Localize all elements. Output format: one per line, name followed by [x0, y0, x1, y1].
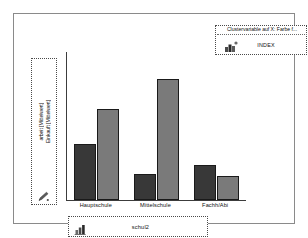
legend-variable-label: INDEX [238, 42, 294, 48]
chart-panel: Clustervariable auf X: Farbe f... INDEX … [13, 13, 295, 224]
y-axis-label-secondary: Einkauft [Mittelwert] [45, 100, 51, 143]
bar[interactable] [217, 176, 239, 200]
bar[interactable] [97, 109, 119, 200]
x-axis-tick-label: Mittelschule [126, 202, 186, 208]
legend-box[interactable]: Clustervariable auf X: Farbe f... INDEX [215, 25, 307, 55]
x-axis-tick-label: Hauptschule [66, 202, 126, 208]
plot-area: HauptschuleMittelschuleFachh/Abi [66, 52, 246, 202]
bar-chart-icon [74, 221, 88, 233]
y-axis-label-stack: arbeit [Mittelwert] Einkauft [Mittelwert… [32, 59, 56, 185]
x-axis-tick-label: Fachh/Abi [185, 202, 245, 208]
legend-title: Clustervariable auf X: Farbe f... [217, 26, 307, 35]
bar[interactable] [134, 174, 156, 200]
bar-group [194, 53, 239, 200]
y-axis-variable-box[interactable]: arbeit [Mittelwert] Einkauft [Mittelwert… [31, 58, 57, 205]
x-axis-tick-labels: HauptschuleMittelschuleFachh/Abi [66, 202, 246, 214]
x-axis-line [66, 200, 246, 201]
bar[interactable] [74, 144, 96, 200]
pencil-icon[interactable] [37, 188, 50, 199]
x-axis-variable-label: schul2 [88, 224, 193, 230]
bar-group [74, 53, 119, 200]
bar[interactable] [157, 79, 179, 200]
bar-series-container [67, 53, 246, 200]
cluster-color-icon [224, 39, 238, 51]
y-axis-label-primary: arbeit [Mittelwert] [38, 103, 44, 141]
x-axis-variable-box[interactable]: schul2 [68, 216, 208, 237]
bar[interactable] [194, 165, 216, 200]
chart-application-window: Clustervariable auf X: Farbe f... INDEX … [0, 0, 308, 238]
bar-group [134, 53, 179, 200]
